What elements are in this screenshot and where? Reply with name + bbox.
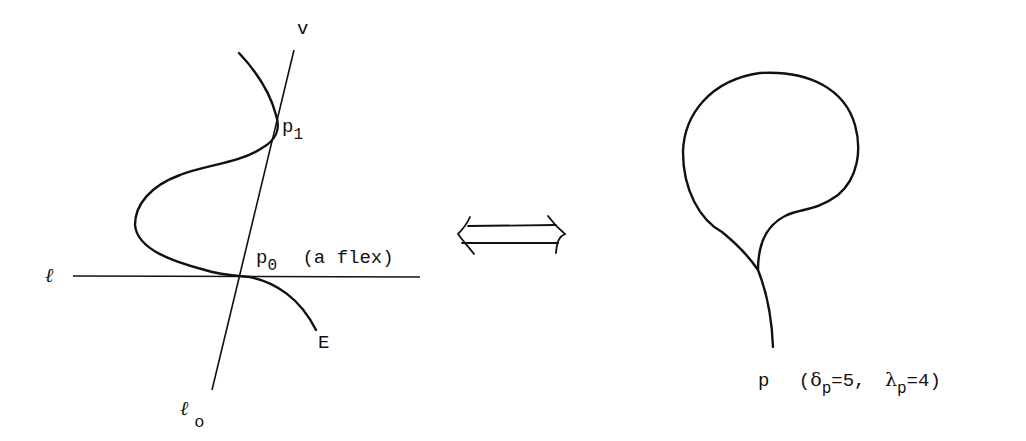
p-label: p <box>758 370 769 392</box>
label-point-p: p (δp=5, λp=4) <box>758 370 941 391</box>
label-l0: ℓo <box>180 398 205 420</box>
p0-base: p <box>256 247 267 269</box>
label-p1: p1 <box>282 118 303 137</box>
line-l0 <box>212 50 294 390</box>
curve-e <box>135 53 316 330</box>
l0-base: ℓ <box>180 396 188 420</box>
label-p0: p0 (a flex) <box>256 249 394 268</box>
lambda-value: =4 <box>907 370 930 392</box>
label-v: v <box>297 20 308 39</box>
label-l: ℓ <box>45 265 53 285</box>
p1-base: p <box>282 116 293 138</box>
delta-value: =5, <box>831 370 865 392</box>
equivalence-arrow-icon <box>458 216 565 254</box>
l0-subscript: o <box>194 413 204 432</box>
close-paren: ) <box>929 370 940 392</box>
p1-subscript: 1 <box>293 126 303 144</box>
loop-curve <box>683 73 858 347</box>
delta-subscript: p <box>822 380 832 398</box>
p0-subscript: 0 <box>267 257 277 275</box>
lambda-symbol: λ <box>885 368 897 390</box>
p0-note: (a flex) <box>302 247 393 269</box>
label-e: E <box>318 334 329 353</box>
open-paren: ( <box>799 370 810 392</box>
delta-symbol: δ <box>810 368 821 390</box>
lambda-subscript: p <box>897 380 907 398</box>
